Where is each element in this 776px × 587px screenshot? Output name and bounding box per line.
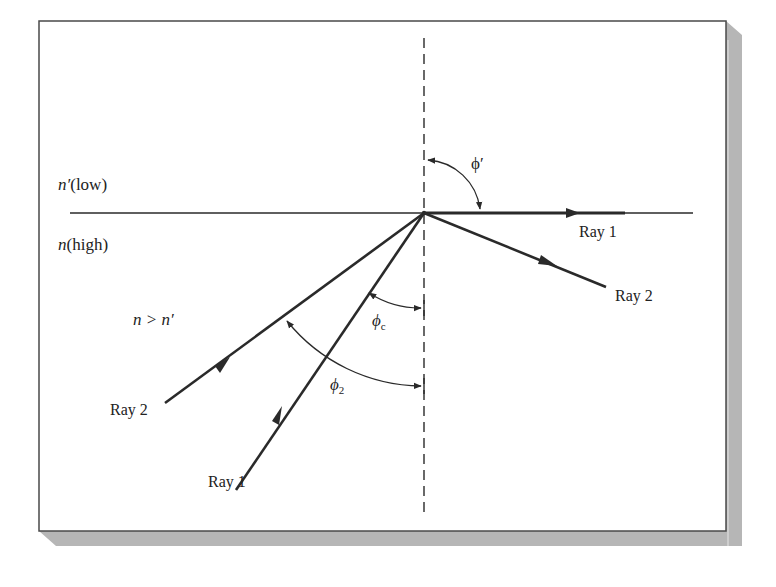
label-ray1-transmitted: Ray 1 [579,224,617,240]
phi-prime-mark: ′ [480,154,484,173]
label-phi-2: ϕ2 [330,376,344,396]
refraction-diagram: n′(low) n(high) n > n′ Ray 2 Ray 1 Ray 1… [0,0,776,587]
upper-index-qualifier: (low) [70,175,107,194]
label-lower-medium: n(high) [58,236,108,253]
label-condition: n > n′ [133,311,174,328]
lower-index-symbol: n [58,235,67,254]
label-ray2-reflected: Ray 2 [615,288,653,304]
phi-2-symbol: ϕ [330,375,339,394]
label-ray2-incident: Ray 2 [110,402,148,418]
phi-prime-symbol: ϕ [471,154,480,173]
phi-c-symbol: ϕ [372,311,381,330]
phi-2-subscript: 2 [339,384,345,396]
label-ray1-incident: Ray 1 [208,474,246,490]
label-phi-prime: ϕ′ [471,155,484,172]
incidence-point [422,211,426,215]
label-upper-medium: n′(low) [58,176,107,193]
lower-index-qualifier: (high) [67,235,109,254]
phi-c-subscript: c [381,320,386,332]
diagram-canvas [0,0,776,587]
label-phi-c: ϕc [372,312,386,332]
upper-index-symbol: n′ [58,175,70,194]
